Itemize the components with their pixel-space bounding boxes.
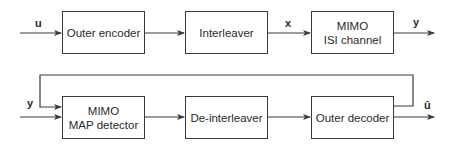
signal-label-u: u: [35, 17, 42, 29]
channel-label-line1: MIMO: [337, 19, 368, 33]
outer-encoder-block: Outer encoder: [62, 11, 145, 54]
outer-decoder-label: Outer decoder: [316, 111, 390, 125]
signal-label-uhat: û: [424, 99, 431, 111]
detector-label-line2: MAP detector: [69, 118, 138, 132]
outer-encoder-label: Outer encoder: [67, 26, 141, 40]
de-interleaver-label: De-interleaver: [190, 111, 262, 125]
outer-decoder-block: Outer decoder: [311, 96, 394, 139]
signal-label-y-top: y: [413, 16, 419, 28]
de-interleaver-block: De-interleaver: [185, 96, 268, 139]
signal-label-x: x: [285, 17, 291, 29]
mimo-map-detector-block: MIMO MAP detector: [62, 96, 145, 139]
detector-label-line1: MIMO: [88, 104, 119, 118]
mimo-isi-channel-block: MIMO ISI channel: [311, 11, 394, 54]
signal-label-y-bottom: y: [27, 97, 33, 109]
interleaver-label: Interleaver: [199, 26, 253, 40]
interleaver-block: Interleaver: [185, 11, 268, 54]
channel-label-line2: ISI channel: [324, 33, 382, 47]
